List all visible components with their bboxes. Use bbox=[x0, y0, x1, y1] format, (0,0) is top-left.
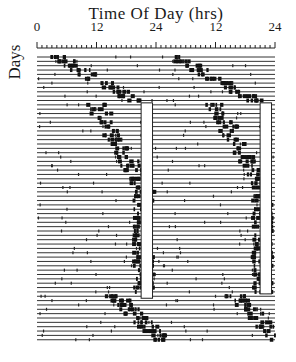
actogram-plot bbox=[0, 0, 296, 362]
activity-rows bbox=[37, 55, 276, 342]
x-axis bbox=[37, 42, 275, 48]
